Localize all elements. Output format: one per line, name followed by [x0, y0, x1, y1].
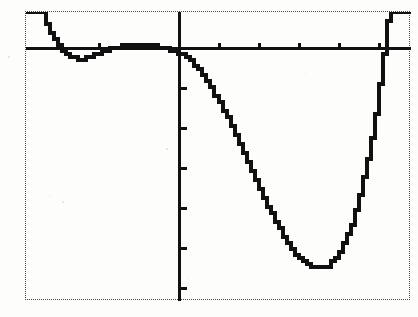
calculator-screen-frame [25, 11, 410, 300]
graph-plot-area [26, 12, 411, 301]
axes-group [26, 12, 411, 301]
calculator-screenshot [0, 0, 418, 317]
scan-speck [8, 56, 10, 58]
function-curve-trace [26, 12, 411, 267]
